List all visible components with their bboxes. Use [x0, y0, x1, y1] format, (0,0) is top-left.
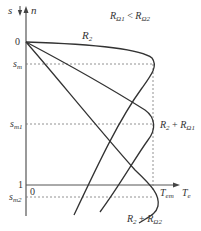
te-axis-label: Te: [182, 187, 191, 200]
n-axis-label: n: [31, 4, 37, 16]
curve-r2: [26, 42, 154, 215]
torque-slip-diagram: s n 0 sm sm1 1 sm2 0 RΩ1 < RΩ2 R2 R2 + R…: [0, 0, 201, 231]
curve-r2-label: R2: [81, 29, 93, 43]
sm2-label: sm2: [9, 191, 22, 204]
sm-label: sm: [13, 58, 22, 71]
one-label: 1: [18, 179, 23, 190]
n-axis-arrow-icon: [24, 6, 29, 13]
origin-label: 0: [15, 36, 20, 47]
origin2-label: 0: [30, 186, 35, 197]
s-axis-label: s: [8, 4, 12, 16]
curve-r2-romega1: [26, 42, 154, 212]
te-axis-arrow-icon: [173, 183, 180, 188]
curve-r2-romega2: [26, 42, 158, 223]
curve-r2-romega2-label: R2 + RΩ2: [126, 213, 162, 226]
tem-label: Tem: [160, 187, 174, 200]
s-axis-arrow-icon: [18, 10, 22, 16]
condition-label: RΩ1 < RΩ2: [109, 10, 150, 23]
curve-r2-romega1-label: R2 + RΩ1: [159, 119, 195, 132]
sm1-label: sm1: [10, 118, 22, 131]
